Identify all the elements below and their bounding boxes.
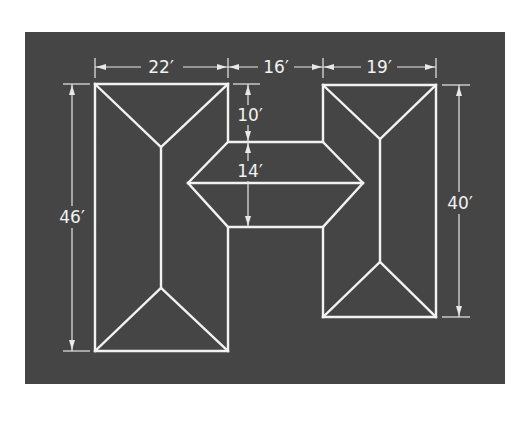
notch-top-label: 10′ <box>237 105 263 125</box>
left-width-label: 22′ <box>148 57 174 77</box>
middle-width-label: 16′ <box>263 57 289 77</box>
middle-depth-label: 14′ <box>237 161 263 181</box>
roof-plan-diagram: 22′ 16′ 19′ 46′ 40′ 10′ 14′ <box>0 0 528 424</box>
right-height-label: 40′ <box>447 193 473 213</box>
left-height-label: 46′ <box>59 207 85 227</box>
right-width-label: 19′ <box>366 57 392 77</box>
